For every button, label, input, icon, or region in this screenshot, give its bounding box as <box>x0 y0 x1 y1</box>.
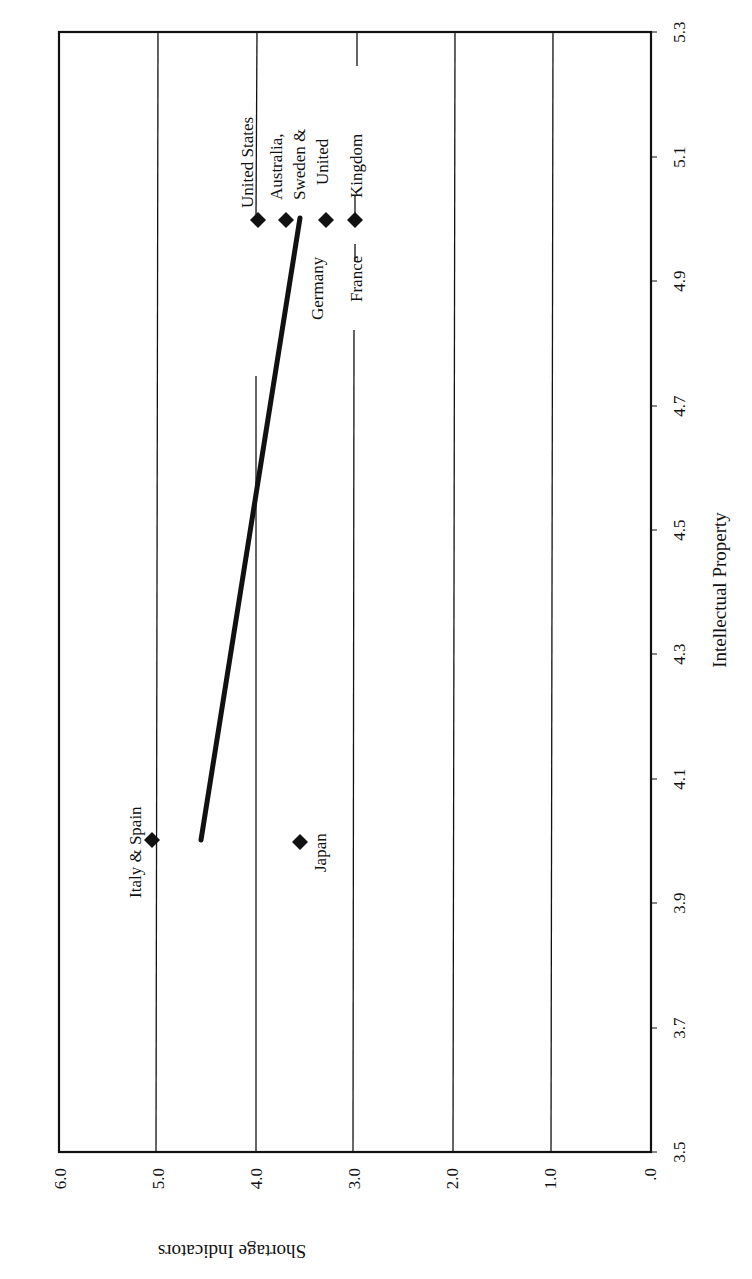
plot-area <box>59 32 651 1152</box>
label-france: France <box>347 256 366 302</box>
y-tick-6: 6.0 <box>51 1168 70 1189</box>
marker-france <box>347 212 363 228</box>
x-tick-5.3: 5.3 <box>670 21 689 42</box>
x-tick-3.7: 3.7 <box>670 1017 689 1039</box>
x-tick-4.1: 4.1 <box>670 768 689 789</box>
x-tick-4.3: 4.3 <box>670 643 689 664</box>
x-tick-4.5: 4.5 <box>670 519 689 540</box>
y-tick-0: .0 <box>641 1168 660 1181</box>
y-tick-3: 3.0 <box>345 1168 364 1189</box>
x-tick-4.7: 4.7 <box>670 395 689 417</box>
label-germany: Germany <box>308 256 327 320</box>
label-asuk-line3: United <box>313 138 332 185</box>
x-tick-3.5: 3.5 <box>670 1141 689 1162</box>
label-united-states: United States <box>238 117 257 208</box>
marker-germany <box>318 212 334 228</box>
y-axis-title: Shortage Indicators <box>158 1241 306 1262</box>
y-tick-5: 5.0 <box>149 1168 168 1189</box>
gridline-5 <box>156 32 158 1152</box>
label-asuk-line2: Sweden & <box>290 129 309 200</box>
label-asuk-line4: Kingdom <box>347 134 366 198</box>
x-tick-5.1: 5.1 <box>670 146 689 167</box>
x-axis-title: Intellectual Property <box>709 512 730 668</box>
gridline-3-bottom <box>353 330 354 1152</box>
x-axis-ticks: 3.5 3.7 3.9 4.1 4.3 4.5 4.7 4.9 5.1 5.3 <box>651 21 689 1162</box>
label-italy-spain: Italy & Spain <box>126 806 145 898</box>
chart: 6.0 5.0 4.0 3.0 2.0 1.0 .0 Shortage Indi… <box>0 0 752 1279</box>
marker-australia-sweden-uk <box>278 212 294 228</box>
gridline-2 <box>453 32 455 1152</box>
y-tick-1: 1.0 <box>541 1168 560 1189</box>
marker-united-states <box>250 212 266 228</box>
point-labels: United States Australia, Sweden & United… <box>126 117 366 898</box>
label-japan: Japan <box>311 833 330 872</box>
x-tick-3.9: 3.9 <box>670 892 689 913</box>
y-axis-ticks: 6.0 5.0 4.0 3.0 2.0 1.0 .0 <box>51 1168 660 1189</box>
marker-japan <box>292 834 308 850</box>
x-tick-4.9: 4.9 <box>670 270 689 291</box>
data-markers <box>144 212 363 850</box>
marker-italy-spain <box>144 832 160 848</box>
y-tick-2: 2.0 <box>443 1168 462 1189</box>
label-asuk-line1: Australia, <box>267 133 286 200</box>
y-tick-4: 4.0 <box>247 1168 266 1189</box>
gridline-1 <box>551 32 553 1152</box>
trend-line <box>201 218 300 840</box>
